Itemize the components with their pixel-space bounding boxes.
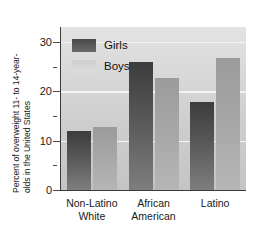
bar-boys-latino (216, 58, 240, 190)
x-axis-category-label-line: Latino (184, 197, 246, 210)
y-axis-tick-mark (53, 42, 60, 43)
y-axis-minor-tick-mark (53, 165, 57, 166)
y-axis-tick-labels: 0102030 (32, 0, 52, 229)
x-axis-category-label-line: White (61, 210, 123, 223)
y-axis-tick-mark (53, 190, 60, 191)
x-axis-category-label-line: Non-Latino (61, 197, 123, 210)
bar-chart: Percent of overweight 11- to 14-year- ol… (0, 0, 253, 229)
y-axis-minor-tick-mark (53, 116, 57, 117)
x-axis-line (60, 190, 246, 191)
legend-item-girls: Girls (72, 36, 164, 54)
y-axis-title-line-2: olds in the United States (22, 101, 32, 193)
x-axis-category-label: Latino (184, 197, 246, 210)
y-axis-minor-tick-mark (53, 67, 57, 68)
legend-swatch-icon (72, 39, 96, 52)
y-axis-tick-label: 30 (40, 36, 52, 48)
y-axis-tick-label: 0 (46, 184, 52, 196)
y-axis-tick-label: 20 (40, 85, 52, 97)
bar-girls-non-latino-white (67, 131, 91, 190)
chart-legend: GirlsBoys (72, 36, 164, 78)
legend-label: Boys (104, 60, 130, 72)
bar-boys-african-american (155, 78, 179, 190)
bar-boys-non-latino-white (93, 127, 117, 190)
x-axis-tick-labels: Non-LatinoWhiteAfricanAmericanLatino (61, 193, 246, 229)
bar-girls-latino (190, 102, 214, 190)
y-axis-title: Percent of overweight 11- to 14-year- ol… (0, 0, 36, 229)
y-axis-tick-mark (53, 91, 60, 92)
legend-label: Girls (104, 39, 128, 51)
bar-girls-african-american (129, 62, 153, 190)
legend-item-boys: Boys (72, 57, 164, 75)
x-axis-category-label-line: American (123, 210, 185, 223)
x-axis-category-label: AfricanAmerican (123, 197, 185, 223)
x-axis-category-label: Non-LatinoWhite (61, 197, 123, 223)
y-axis-tick-label: 10 (40, 135, 52, 147)
y-axis-title-line-1: Percent of overweight 11- to 14-year- (11, 54, 21, 193)
x-axis-category-label-line: African (123, 197, 185, 210)
legend-swatch-icon (72, 60, 96, 73)
y-axis-tick-mark (53, 141, 60, 142)
